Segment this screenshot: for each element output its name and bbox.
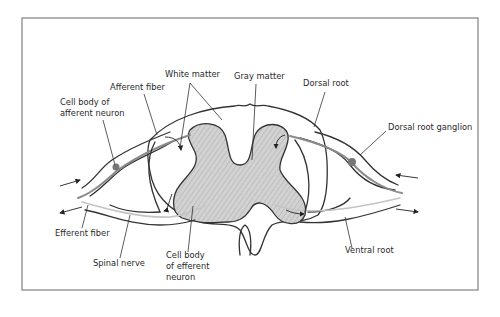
label-dorsal-root: Dorsal root: [303, 78, 350, 88]
label-white-matter: White matter: [165, 69, 221, 79]
label-cell-body-afferent-line1: Cell body of: [60, 97, 110, 107]
label-gray-matter: Gray matter: [234, 71, 285, 81]
label-cell-body-efferent-line3: neuron: [166, 272, 195, 282]
label-dorsal-root-ganglion: Dorsal root ganglion: [388, 122, 472, 132]
right-ganglion-cell-body: [348, 158, 356, 166]
spinal-cord-diagram: White matter Gray matter Dorsal root Aff…: [0, 0, 500, 317]
label-spinal-nerve: Spinal nerve: [93, 258, 145, 268]
label-cell-body-efferent-line2: of efferent: [166, 261, 210, 271]
left-ganglion-cell-body: [113, 164, 120, 171]
label-afferent-fiber: Afferent fiber: [110, 82, 166, 92]
label-cell-body-efferent-line1: Cell body: [166, 250, 205, 260]
label-efferent-fiber: Efferent fiber: [55, 228, 110, 238]
label-ventral-root: Ventral root: [345, 245, 394, 255]
label-cell-body-afferent-line2: afferent neuron: [60, 108, 125, 118]
